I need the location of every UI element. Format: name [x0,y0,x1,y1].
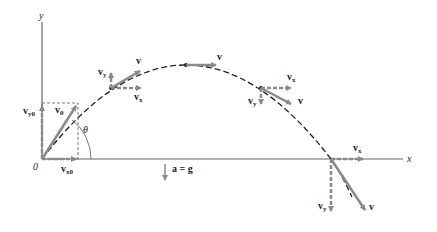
landing-vx-label: vx [353,142,362,155]
v0-label: v0 [55,104,64,117]
apex-v-label: v [217,51,222,62]
projectile-diagram: y x 0 θ vy0 v0 vx0 vy v vx v vx vy v vx … [0,0,437,232]
landing-v-vector [331,159,365,210]
landing-vy-label: vy [318,200,327,213]
theta-label: θ [83,124,88,135]
rising-vx-label: vx [134,91,143,104]
descending-v-label: v [298,95,303,106]
landing-v-label: v [369,201,374,212]
descending-v-vector [261,88,291,104]
rising-v-vector [111,71,140,88]
rising-v-label: v [136,55,141,66]
descending-vx-label: vx [287,71,296,84]
descending-vy-label: vy [248,95,257,108]
theta-arc [72,120,91,159]
x-axis-label: x [406,153,412,164]
trajectory-curve [42,65,352,197]
rising-vy-label: vy [98,66,107,79]
origin-label: 0 [33,161,38,172]
acceleration-label: a = g [172,163,193,174]
y-axis-label: y [38,10,44,21]
vx0-label: vx0 [61,163,74,176]
vy0-label: vy0 [23,105,36,118]
